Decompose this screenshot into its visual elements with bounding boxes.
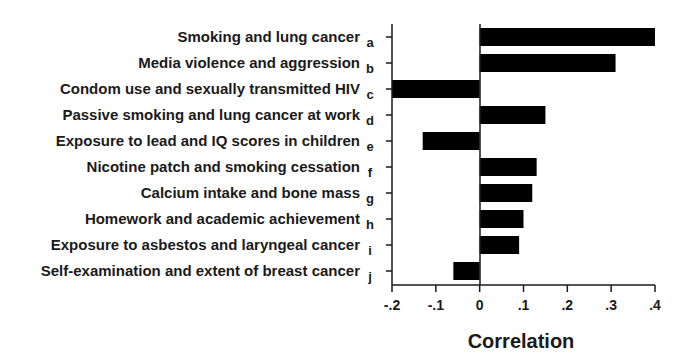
category-label: Homework and academic achievement bbox=[85, 210, 360, 227]
bar-row: Media violence and aggressionb bbox=[138, 54, 615, 76]
x-axis-title: Correlation bbox=[468, 330, 575, 352]
category-label: Nicotine patch and smoking cessation bbox=[87, 158, 360, 175]
category-letter: f bbox=[368, 165, 373, 180]
category-letter: a bbox=[366, 35, 374, 50]
category-label: Condom use and sexually transmitted HIV bbox=[60, 80, 360, 97]
x-tick-label: -.1 bbox=[428, 297, 445, 313]
x-tick-label: -.2 bbox=[384, 297, 401, 313]
category-letter: b bbox=[366, 61, 374, 76]
bar-row: Exposure to lead and IQ scores in childr… bbox=[56, 132, 480, 154]
bar-row: Exposure to asbestos and laryngeal cance… bbox=[51, 236, 519, 258]
bar-row: Calcium intake and bone massg bbox=[141, 184, 533, 206]
bar-row: Condom use and sexually transmitted HIVc bbox=[60, 80, 480, 102]
x-tick-label: .2 bbox=[561, 297, 573, 313]
bar-row: Passive smoking and lung cancer at workd bbox=[62, 106, 545, 128]
correlation-bar-chart: Smoking and lung canceraMedia violence a… bbox=[0, 0, 679, 363]
x-tick-label: .4 bbox=[649, 297, 661, 313]
bar bbox=[480, 106, 546, 124]
x-tick-label: .3 bbox=[605, 297, 617, 313]
bar bbox=[453, 262, 479, 280]
bar bbox=[480, 28, 655, 46]
category-letter: e bbox=[366, 139, 373, 154]
bar bbox=[423, 132, 480, 150]
bar bbox=[480, 54, 616, 72]
bar-row: Homework and academic achievementh bbox=[85, 210, 524, 232]
bar bbox=[392, 80, 480, 98]
x-tick-label: .1 bbox=[518, 297, 530, 313]
bar bbox=[480, 158, 537, 176]
bar-row: Smoking and lung cancera bbox=[177, 28, 655, 50]
category-letter: c bbox=[366, 87, 373, 102]
x-tick-label: 0 bbox=[476, 297, 484, 313]
category-label: Exposure to asbestos and laryngeal cance… bbox=[51, 236, 360, 253]
category-label: Passive smoking and lung cancer at work bbox=[62, 106, 360, 123]
bar bbox=[480, 210, 524, 228]
category-letter: i bbox=[368, 243, 372, 258]
category-label: Self-examination and extent of breast ca… bbox=[41, 262, 360, 279]
x-axis-ticks: -.2-.10.1.2.3.4 bbox=[384, 285, 661, 313]
bar-row: Self-examination and extent of breast ca… bbox=[41, 262, 480, 284]
category-label: Media violence and aggression bbox=[138, 54, 360, 71]
category-letter: d bbox=[366, 113, 374, 128]
bar bbox=[480, 236, 519, 254]
chart-rows: Smoking and lung canceraMedia violence a… bbox=[41, 28, 655, 284]
category-letter: h bbox=[366, 217, 374, 232]
category-label: Calcium intake and bone mass bbox=[141, 184, 360, 201]
bar bbox=[480, 184, 533, 202]
category-letter: g bbox=[366, 191, 374, 206]
category-letter: j bbox=[367, 269, 372, 284]
category-label: Smoking and lung cancer bbox=[177, 28, 360, 45]
category-label: Exposure to lead and IQ scores in childr… bbox=[56, 132, 360, 149]
bar-row: Nicotine patch and smoking cessationf bbox=[87, 158, 537, 180]
